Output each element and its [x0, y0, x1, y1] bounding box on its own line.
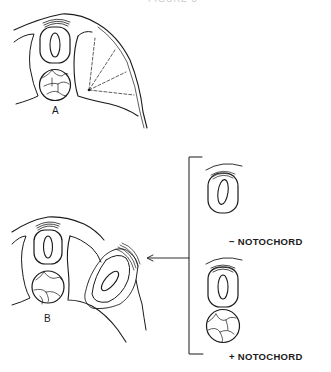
minus-notochord-label: − NOTOCHORD	[229, 236, 303, 247]
neural-canal-b	[44, 236, 53, 258]
somite-top-b	[70, 236, 101, 262]
graft-canal	[98, 269, 121, 294]
diagram-canvas: A B	[0, 0, 331, 372]
neural-tube-b	[34, 230, 62, 264]
arc-over-tube-2	[206, 258, 242, 264]
panel-a	[14, 14, 147, 128]
somite-outline-b	[67, 236, 126, 342]
arc-over-tube-1	[206, 164, 242, 170]
somite-outline	[74, 36, 138, 116]
ectoderm-outline	[14, 14, 147, 128]
notochord-plus	[207, 310, 240, 343]
graft-side	[136, 280, 146, 330]
radial-dashed-lines	[89, 38, 134, 95]
neural-tube-minus	[208, 173, 238, 213]
left-mesoderm-b	[12, 236, 30, 305]
roof-plate-lines	[43, 19, 70, 27]
left-mesoderm	[14, 34, 38, 104]
explant-plus-notochord	[206, 258, 242, 343]
graft-outline	[85, 249, 138, 309]
neural-tube	[40, 27, 70, 63]
ectoderm-inner	[98, 27, 144, 128]
legend-bracket	[147, 157, 203, 354]
neural-tube-plus	[208, 267, 238, 307]
plus-notochord-label: + NOTOCHORD	[229, 351, 303, 362]
graft-roof-lines	[116, 243, 140, 270]
graft-inner	[92, 255, 130, 302]
somite-top	[78, 32, 92, 37]
panel-a-label: A	[52, 105, 59, 116]
panel-b-label: B	[44, 313, 51, 324]
roof-plate-lines-b	[36, 222, 60, 230]
panel-b	[12, 217, 146, 342]
neural-canal	[50, 33, 60, 57]
neural-canal-plus	[218, 275, 228, 299]
radial-origin	[88, 89, 90, 91]
neural-canal-minus	[216, 179, 229, 205]
notochord-cells	[42, 70, 69, 96]
explant-minus-notochord	[206, 164, 242, 213]
